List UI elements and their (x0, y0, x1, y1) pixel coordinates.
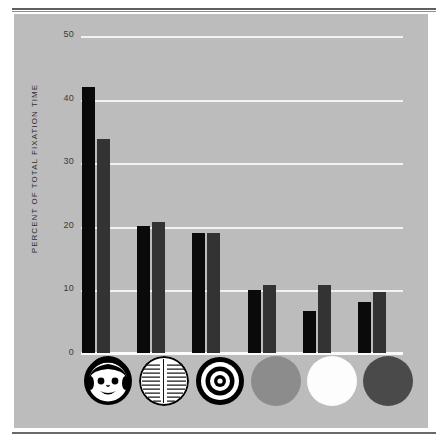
newsprint-pattern-icon (139, 356, 189, 406)
bar-face-older (97, 139, 110, 353)
chart-panel: 50 40 30 20 10 0 PERCENT OF TOTAL FIXATI… (14, 14, 428, 428)
face-pattern-icon (83, 356, 133, 406)
stimulus-icon-row (81, 354, 411, 428)
fixation-time-bar-chart-figure: 50 40 30 20 10 0 PERCENT OF TOTAL FIXATI… (0, 0, 442, 442)
bar-bullseye-younger (192, 233, 205, 353)
bar-white-disc-younger (303, 311, 316, 353)
top-rule-divider-secondary (12, 11, 436, 12)
bar-red-disc-younger (248, 290, 261, 353)
white-disc-icon (307, 356, 357, 406)
bar-yellow-disc-younger (358, 302, 371, 353)
bullseye-pattern-icon (195, 356, 245, 406)
plot-area: 50 40 30 20 10 0 PERCENT OF TOTAL FIXATI… (14, 14, 428, 428)
bar-yellow-disc-older (373, 292, 386, 353)
bar-newsprint-older (152, 222, 165, 353)
bar-newsprint-younger (137, 226, 150, 353)
yellow-disc-icon (363, 356, 413, 406)
top-rule-divider (12, 8, 436, 10)
bars-layer (14, 14, 428, 355)
bar-red-disc-older (263, 285, 276, 353)
bottom-rule-divider (12, 432, 436, 434)
bar-face-younger (82, 87, 95, 353)
bar-white-disc-older (318, 285, 331, 353)
red-disc-icon (251, 356, 301, 406)
bar-bullseye-older (207, 233, 220, 353)
